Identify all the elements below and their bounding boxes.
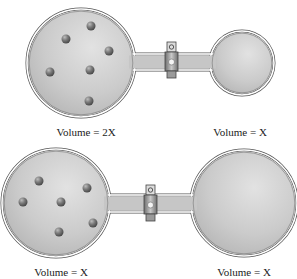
gas-particle — [89, 219, 98, 228]
gas-particle — [55, 228, 64, 237]
gas-particle — [19, 198, 28, 207]
stopcock-valve-icon — [165, 42, 178, 78]
apparatus-bottom — [2, 149, 297, 257]
gas-particle — [62, 35, 71, 44]
left-label-top: Volume = 2X — [56, 126, 115, 138]
gas-particle — [85, 97, 94, 106]
gas-particle — [86, 66, 95, 75]
left-label-bottom: Volume = X — [34, 266, 88, 278]
gas-particle — [87, 22, 96, 31]
stopcock-valve-icon — [144, 185, 157, 221]
gas-particle — [35, 177, 44, 186]
apparatus-top — [27, 9, 274, 117]
gas-particle — [57, 198, 66, 207]
gas-expansion-diagram — [0, 0, 297, 279]
gas-particle — [105, 47, 114, 56]
gas-particle — [83, 184, 92, 193]
right-label-bottom: Volume = X — [217, 266, 271, 278]
right-bulb — [212, 33, 273, 94]
right-label-top: Volume = X — [213, 126, 267, 138]
gas-particle — [46, 68, 55, 77]
